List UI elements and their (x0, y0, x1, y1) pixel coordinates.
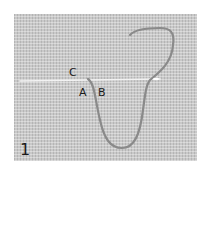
label-a: A (79, 87, 87, 98)
needle-eye (153, 78, 159, 80)
label-b: B (98, 87, 106, 98)
label-c: C (69, 67, 77, 78)
panel-number: 1 (20, 142, 30, 158)
